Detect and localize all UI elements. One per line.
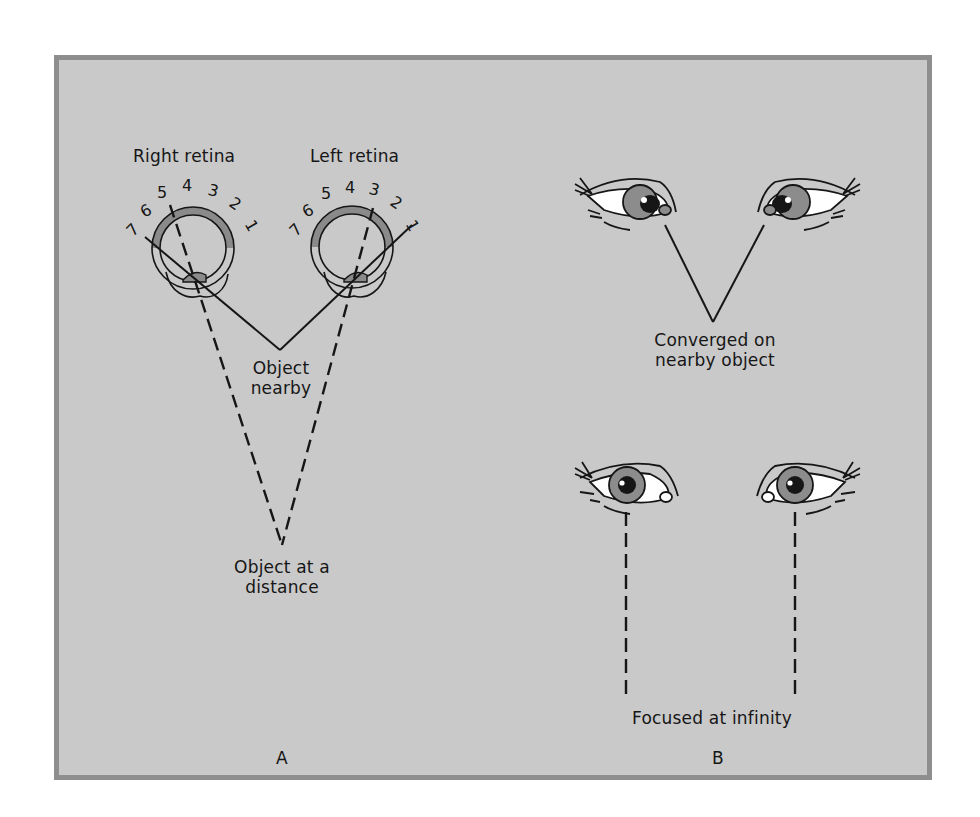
left-retina-number-4: 4 [345,180,355,196]
converged-left-eye-icon [758,178,860,230]
object-distance-line-1: Object at a [226,557,338,577]
right-retina-number-5: 5 [157,185,167,201]
converged-sightlines [665,225,764,322]
object-nearby-label: Object nearby [245,358,317,398]
converged-label: Converged on nearby object [645,330,785,370]
object-distance-line-2: distance [226,577,338,597]
object-nearby-line-2: nearby [245,378,317,398]
panel-label-b: B [712,748,724,768]
infinity-sightlines [626,512,795,696]
right-retina-number-4: 4 [182,178,192,194]
infinity-left-eye-icon [757,462,860,514]
converged-line-2: nearby object [645,350,785,370]
left-eyeball-icon [311,206,393,297]
converged-line-1: Converged on [645,330,785,350]
object-distance-label: Object at a distance [226,557,338,597]
panel-label-a: A [276,748,288,768]
left-retina-number-5: 5 [321,186,331,202]
diagram-canvas [0,0,980,817]
object-nearby-line-1: Object [245,358,317,378]
infinity-right-eye-icon [575,462,678,514]
right-retina-title: Right retina [133,146,235,166]
converged-right-eye-icon [575,178,676,230]
left-retina-title: Left retina [310,146,399,166]
focused-at-infinity-label: Focused at infinity [622,708,802,728]
